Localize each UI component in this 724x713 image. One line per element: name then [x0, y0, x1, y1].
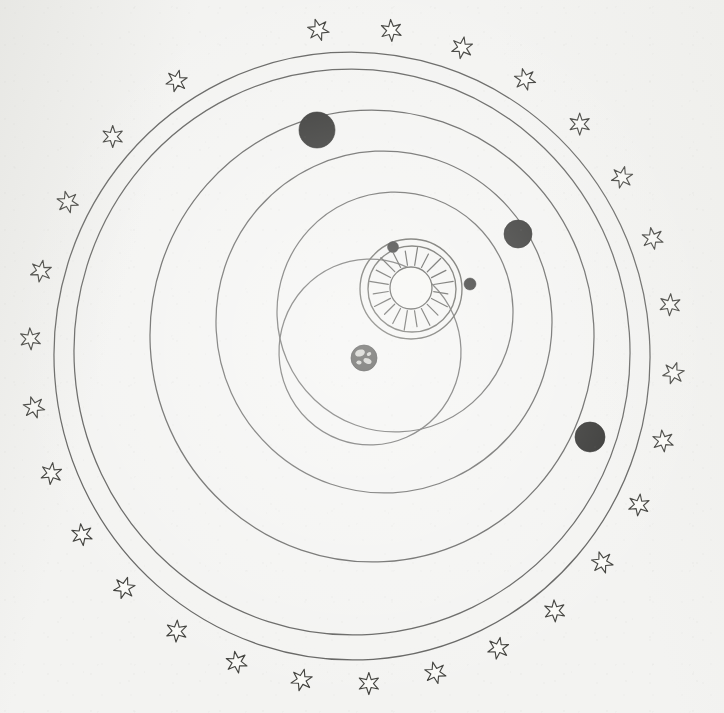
- sun-ray: [370, 281, 389, 284]
- fixed-star: [545, 600, 565, 622]
- saturn-orbit: [55, 50, 649, 653]
- sun-ray: [415, 311, 417, 327]
- fixed-star: [425, 662, 446, 683]
- fixed-star: [31, 260, 52, 282]
- fixed-star: [514, 69, 535, 90]
- earth: [351, 345, 377, 371]
- sun-ray: [421, 309, 429, 326]
- sun-ray: [404, 311, 407, 330]
- planet-saturn: [299, 112, 335, 148]
- solar-system-diagram: [0, 0, 724, 713]
- sun-ray: [432, 270, 446, 277]
- jupiter-orbit: [138, 99, 605, 574]
- fixed-star: [642, 228, 663, 250]
- fixed-star: [308, 19, 329, 40]
- fixed-star: [629, 494, 649, 516]
- sun-ray: [373, 292, 388, 294]
- planet-mercury: [388, 242, 399, 253]
- fixed-star: [103, 126, 122, 148]
- planet-mars: [575, 422, 605, 452]
- sun-ray: [427, 304, 438, 315]
- fixed-star: [611, 167, 632, 188]
- fixed-star: [114, 577, 135, 598]
- fixed-star: [57, 191, 78, 212]
- sun-ray: [393, 308, 401, 323]
- fixed-star: [21, 328, 41, 350]
- sun-disc: [390, 267, 432, 309]
- fixed-star: [488, 637, 509, 659]
- sun-ray: [422, 254, 429, 268]
- sun-ray: [375, 298, 391, 306]
- fixed-star: [592, 552, 613, 573]
- sun-ray: [385, 304, 395, 314]
- fixed-star: [381, 19, 401, 41]
- fixed-star: [226, 651, 247, 673]
- sun-ray: [393, 252, 401, 267]
- fixed-star: [653, 430, 673, 452]
- planet-venus: [464, 278, 476, 290]
- fixed-star: [167, 620, 187, 642]
- sun-ray: [381, 258, 395, 272]
- fixed-star: [663, 363, 684, 384]
- sun-ray: [415, 248, 418, 266]
- earth-globe-icon: [351, 345, 377, 371]
- fixed-star: [72, 524, 92, 546]
- sun-ray: [376, 270, 390, 277]
- fixed-star: [359, 673, 378, 695]
- fixed-star: [41, 463, 61, 485]
- sun-ray: [427, 259, 440, 272]
- fixed-star: [452, 37, 473, 59]
- sun-ray: [405, 251, 407, 265]
- fixed-star: [570, 113, 589, 135]
- fixed-star: [660, 294, 680, 316]
- fixed-star: [23, 397, 44, 418]
- fixed-star: [291, 669, 312, 690]
- sun-ray: [434, 281, 453, 284]
- astronomical-diagram-page: Heliocentric Solar System Diagram Hand-d…: [0, 0, 724, 713]
- sun-annual-orbit: [273, 188, 517, 436]
- planet-jupiter: [504, 220, 532, 248]
- fixed-star: [166, 70, 187, 91]
